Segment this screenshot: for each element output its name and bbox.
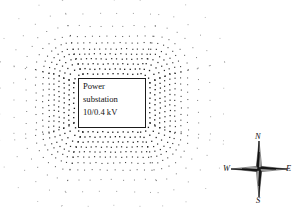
diagram-canvas: Power substation 10/0.4 kV	[0, 0, 298, 211]
substation-label-line3: 10/0.4 kV	[83, 106, 145, 119]
substation-label-line2: substation	[83, 93, 145, 106]
compass-rose: N E S W	[222, 132, 296, 206]
compass-label-east: E	[286, 165, 291, 173]
compass-star-icon	[222, 132, 296, 206]
compass-label-west: W	[223, 165, 230, 173]
substation-label-line1: Power	[83, 80, 145, 93]
compass-label-south: S	[256, 197, 260, 205]
substation-label: Power substation 10/0.4 kV	[83, 80, 145, 120]
compass-label-north: N	[255, 133, 261, 141]
